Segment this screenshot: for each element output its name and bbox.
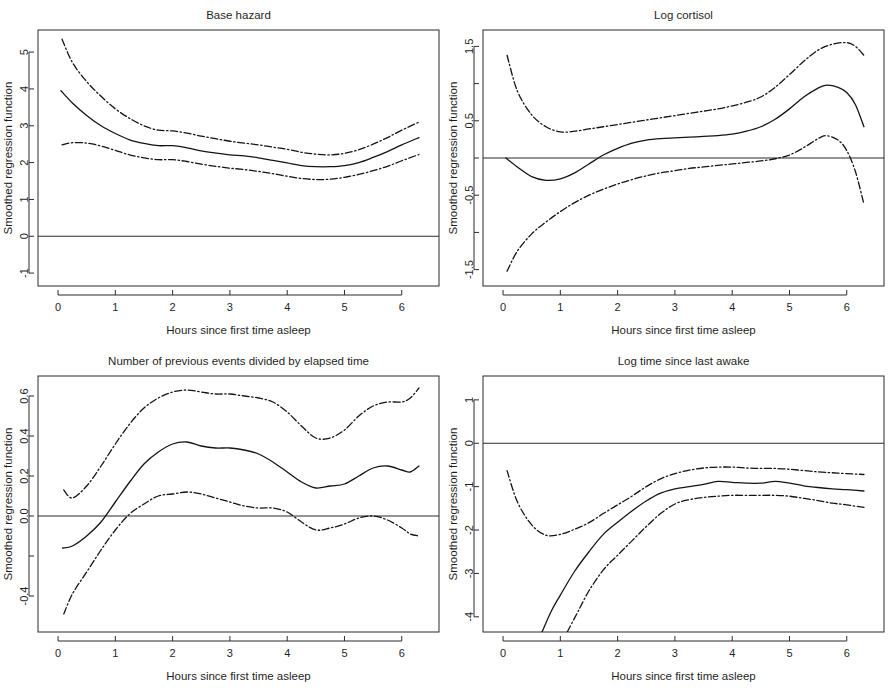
x-tick-label: 2: [615, 301, 621, 313]
x-tick-label: 2: [170, 647, 176, 659]
y-tick-label: 0.0: [18, 508, 30, 523]
y-tick-label: 0.4: [18, 428, 30, 443]
smoothed-fit-curve: [506, 85, 864, 180]
smoothed-fit-curve: [61, 91, 419, 167]
y-tick-label: 3: [18, 123, 30, 129]
y-tick-label: -2: [463, 525, 475, 535]
x-tick-label: 0: [55, 301, 61, 313]
y-tick-label: 5: [18, 49, 30, 55]
confidence-band-curve: [64, 492, 419, 614]
y-tick-label: 0.5: [463, 113, 475, 128]
x-tick-label: 0: [55, 647, 61, 659]
panel-previous-events-rate: Number of previous events divided by ela…: [0, 346, 445, 692]
x-tick-label: 3: [672, 647, 678, 659]
y-tick-label: 0.2: [18, 468, 30, 483]
confidence-band-curve: [567, 495, 864, 632]
x-tick-label: 2: [170, 301, 176, 313]
x-tick-label: 5: [786, 647, 792, 659]
plot-frame: [483, 376, 884, 632]
confidence-band-curve: [507, 467, 864, 536]
x-tick-label: 3: [227, 301, 233, 313]
y-tick-label: 0: [18, 233, 30, 239]
panel-log-cortisol: Log cortisol-1.5-0.50.51.50123456Hours s…: [445, 0, 890, 346]
y-tick-label: -1.5: [463, 260, 475, 279]
panel-title: Log cortisol: [654, 9, 713, 21]
y-tick-label: -1: [18, 268, 30, 278]
y-tick-label: -0.5: [463, 186, 475, 205]
x-tick-label: 4: [284, 647, 290, 659]
x-tick-label: 2: [615, 647, 621, 659]
y-tick-label: -0.4: [18, 587, 30, 606]
confidence-band-curve: [507, 136, 864, 271]
x-tick-label: 5: [341, 647, 347, 659]
x-axis-title: Hours since first time asleep: [166, 324, 310, 336]
y-tick-label: 1.5: [463, 39, 475, 54]
panel-base-hazard: Base hazard-10123450123456Hours since fi…: [0, 0, 445, 346]
x-tick-label: 5: [341, 301, 347, 313]
y-tick-label: 1: [463, 397, 475, 403]
x-tick-label: 6: [844, 301, 850, 313]
x-tick-label: 0: [500, 301, 506, 313]
figure-container: Base hazard-10123450123456Hours since fi…: [0, 0, 890, 692]
x-axis-title: Hours since first time asleep: [166, 670, 310, 682]
smoothed-fit-curve: [63, 442, 419, 548]
x-tick-label: 1: [112, 647, 118, 659]
x-tick-label: 6: [844, 647, 850, 659]
x-tick-label: 4: [729, 647, 735, 659]
x-tick-label: 1: [557, 647, 563, 659]
x-tick-label: 6: [399, 647, 405, 659]
panel-title: Number of previous events divided by ela…: [108, 355, 369, 367]
y-tick-label: -3: [463, 569, 475, 579]
x-tick-label: 4: [284, 301, 290, 313]
confidence-band-curve: [62, 39, 419, 155]
x-tick-label: 5: [786, 301, 792, 313]
y-tick-label: 0.6: [18, 388, 30, 403]
x-axis-title: Hours since first time asleep: [611, 324, 755, 336]
plot-frame: [38, 30, 439, 286]
y-axis-title: Smoothed regression function: [447, 428, 459, 581]
y-axis-title: Smoothed regression function: [2, 428, 14, 581]
x-tick-label: 0: [500, 647, 506, 659]
confidence-band-curve: [64, 388, 419, 498]
y-axis-title: Smoothed regression function: [2, 82, 14, 235]
smoothed-fit-curve: [542, 481, 864, 632]
panel-log-time-since-awake: Log time since last awake-4-3-2-10101234…: [445, 346, 890, 692]
y-tick-label: -4: [463, 612, 475, 622]
x-tick-label: 3: [672, 301, 678, 313]
x-tick-label: 4: [729, 301, 735, 313]
x-axis-title: Hours since first time asleep: [611, 670, 755, 682]
y-tick-label: 4: [18, 86, 30, 92]
panel-title: Log time since last awake: [618, 355, 750, 367]
y-tick-label: 1: [18, 196, 30, 202]
confidence-band-curve: [507, 43, 864, 133]
y-tick-label: -1: [463, 482, 475, 492]
panel-title: Base hazard: [206, 9, 271, 21]
x-tick-label: 1: [557, 301, 563, 313]
y-tick-label: 0: [463, 440, 475, 446]
y-tick-label: 2: [18, 160, 30, 166]
y-axis-title: Smoothed regression function: [447, 82, 459, 235]
x-tick-label: 1: [112, 301, 118, 313]
x-tick-label: 6: [399, 301, 405, 313]
x-tick-label: 3: [227, 647, 233, 659]
